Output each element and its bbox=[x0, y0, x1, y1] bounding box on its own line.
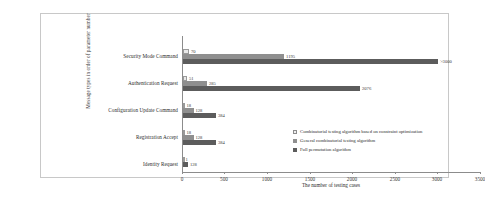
y-tick-label-authentication-request: Authentication Request bbox=[128, 80, 178, 87]
y-axis-category-labels: Identity Request Registration Accept Con… bbox=[87, 36, 182, 172]
chart-border: Message types in order of parameter numb… bbox=[40, 13, 449, 178]
x-tick-1500 bbox=[310, 172, 311, 174]
bar-label-security-mode-command-series3: >3000 bbox=[440, 59, 452, 64]
y-tick-label-identity-request: Identity Request bbox=[143, 161, 178, 168]
bar-label-identity-request-series1: 1 bbox=[186, 157, 188, 162]
legend-item-general-combinatorial: General combinatorial testing algorithm bbox=[293, 136, 483, 145]
x-tick-3500 bbox=[480, 172, 481, 174]
x-tick-3000 bbox=[437, 172, 438, 174]
bar-label-security-mode-command-series2: 1195 bbox=[286, 54, 295, 59]
y-tick-label-security-mode-command: Security Mode Command bbox=[123, 53, 178, 60]
bar-label-registration-accept-series1: 18 bbox=[187, 130, 192, 135]
bar-label-authentication-request-series3: 2076 bbox=[362, 86, 371, 91]
bar-security-mode-command-series1 bbox=[183, 49, 189, 54]
legend-label-series3: Full permutation algorithm bbox=[300, 147, 351, 153]
bar-security-mode-command-series3 bbox=[183, 59, 438, 64]
x-tick-2000 bbox=[352, 172, 353, 174]
bar-configuration-update-command-series2 bbox=[183, 108, 194, 113]
y-tick-label-configuration-update-command: Configuration Update Command bbox=[108, 107, 178, 114]
x-tick-2500 bbox=[395, 172, 396, 174]
x-axis-line bbox=[182, 172, 480, 173]
bar-label-security-mode-command-series1: 70 bbox=[191, 49, 196, 54]
x-axis-title: The number of testing cases bbox=[182, 182, 480, 188]
legend-swatch-icon-series2 bbox=[293, 139, 297, 143]
bar-label-configuration-update-command-series2: 128 bbox=[196, 108, 203, 113]
bar-security-mode-command-series2 bbox=[183, 54, 284, 59]
bar-identity-request-series3 bbox=[183, 162, 188, 167]
legend-swatch-icon-series3 bbox=[293, 148, 297, 152]
bar-authentication-request-series1 bbox=[183, 76, 187, 81]
x-tick-1000 bbox=[267, 172, 268, 174]
legend-label-series1: Combinatorial testing algorithm based on… bbox=[300, 129, 422, 135]
bar-label-registration-accept-series3: 384 bbox=[218, 140, 225, 145]
x-tick-500 bbox=[224, 172, 225, 174]
bar-label-authentication-request-series2: 285 bbox=[209, 81, 216, 86]
legend-swatch-icon-series1 bbox=[293, 130, 297, 134]
bar-configuration-update-command-series3 bbox=[183, 113, 216, 118]
bar-label-identity-request-series2: 128 bbox=[190, 162, 197, 167]
bar-label-configuration-update-command-series1: 18 bbox=[187, 103, 192, 108]
bar-configuration-update-command-series1 bbox=[183, 103, 185, 108]
legend-item-constraint-optimization: Combinatorial testing algorithm based on… bbox=[293, 127, 483, 136]
chart-legend: Combinatorial testing algorithm based on… bbox=[293, 127, 483, 154]
bar-label-registration-accept-series2: 128 bbox=[196, 135, 203, 140]
bar-label-authentication-request-series1: 51 bbox=[189, 76, 194, 81]
y-tick-label-registration-accept: Registration Accept bbox=[136, 134, 178, 141]
x-tick-0 bbox=[182, 172, 183, 174]
bar-registration-accept-series3 bbox=[183, 140, 216, 145]
bar-registration-accept-series2 bbox=[183, 135, 194, 140]
legend-item-full-permutation: Full permutation algorithm bbox=[293, 145, 483, 154]
bar-authentication-request-series2 bbox=[183, 81, 207, 86]
bar-registration-accept-series1 bbox=[183, 130, 185, 135]
legend-label-series2: General combinatorial testing algorithm bbox=[300, 138, 375, 144]
bar-label-configuration-update-command-series3: 384 bbox=[218, 113, 225, 118]
bar-authentication-request-series3 bbox=[183, 86, 360, 91]
